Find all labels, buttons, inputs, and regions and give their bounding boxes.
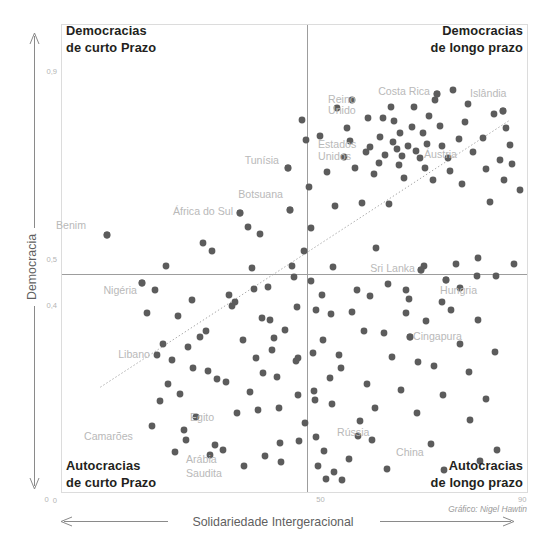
data-point (391, 118, 398, 125)
point-label: Islândia (470, 87, 507, 99)
data-point (497, 157, 504, 164)
labeled-data-point (237, 210, 244, 217)
data-point (320, 337, 327, 344)
data-point (332, 203, 339, 210)
data-point (313, 434, 320, 441)
data-point (299, 117, 306, 124)
data-point (367, 293, 374, 300)
data-point (226, 292, 233, 299)
point-label: Benim (56, 219, 86, 231)
data-point (265, 284, 272, 291)
data-point (336, 352, 343, 359)
data-point (157, 398, 164, 405)
labeled-data-point (443, 277, 450, 284)
data-point (507, 142, 514, 149)
data-point (396, 162, 403, 169)
data-point (388, 104, 395, 111)
quadrant-label-bottom-left-line1: Autocracias (66, 458, 140, 473)
data-point (503, 125, 510, 132)
x-tick-label: 50 (316, 495, 324, 504)
data-point (315, 463, 322, 470)
data-point (177, 391, 184, 398)
data-point (426, 113, 433, 120)
data-point (376, 160, 383, 167)
labeled-data-point (418, 267, 425, 274)
data-point (165, 381, 172, 388)
data-point (251, 286, 258, 293)
data-point (232, 299, 239, 306)
point-label: Saudita (186, 467, 222, 479)
data-point (381, 330, 388, 337)
point-label: Unido (328, 104, 356, 116)
data-point (296, 438, 303, 445)
quadrant-label-top-right-line1: Democracias (442, 23, 523, 38)
point-label: Hungria (440, 284, 477, 296)
data-point (483, 166, 490, 173)
data-point (390, 139, 397, 146)
data-point (276, 405, 283, 412)
data-point (483, 396, 490, 403)
data-point (417, 155, 424, 162)
data-point (352, 165, 359, 172)
point-label: Estados (318, 138, 356, 150)
labeled-data-point (139, 280, 146, 287)
data-point (394, 146, 401, 153)
data-point (459, 181, 466, 188)
data-point (330, 264, 337, 271)
data-point (380, 115, 387, 122)
data-point (327, 375, 334, 382)
data-point (220, 447, 227, 454)
data-point (308, 225, 315, 232)
data-point (509, 161, 516, 168)
data-point (205, 368, 212, 375)
data-point (149, 423, 156, 430)
data-point (364, 381, 371, 388)
data-point (403, 287, 410, 294)
quadrant-label-top-left-line2: de curto Prazo (66, 40, 156, 55)
data-point (301, 248, 308, 255)
data-point (189, 297, 196, 304)
data-point (422, 165, 429, 172)
data-point (399, 153, 406, 160)
data-point (406, 296, 413, 303)
data-point (257, 231, 264, 238)
data-point (160, 341, 167, 348)
data-point (197, 334, 204, 341)
x-tick-label: 0 (45, 495, 49, 504)
data-point (241, 463, 248, 470)
quadrant-label-top-left-line1: Democracias (66, 23, 147, 38)
data-point (440, 392, 447, 399)
data-point (282, 327, 289, 334)
data-point (339, 477, 346, 484)
quadrant-label-top-right-line2: de longo prazo (431, 40, 523, 55)
y-tick-label: 0,5 (46, 255, 57, 264)
quadrant-label-bottom-right-line1: Autocracias (449, 458, 523, 473)
data-point (175, 313, 182, 320)
data-point (209, 248, 216, 255)
data-point (313, 307, 320, 314)
data-point (384, 466, 391, 473)
data-point (344, 125, 351, 132)
data-point (152, 287, 159, 294)
data-point (377, 134, 384, 141)
data-point (492, 349, 499, 356)
point-label: Cingapura (413, 330, 462, 342)
chart-canvas: BenimNigériaÁfrica do SulTunísiaBotsuana… (0, 0, 546, 553)
data-point (223, 379, 230, 386)
data-point (467, 417, 474, 424)
data-point (354, 287, 361, 294)
quadrant-label-bottom-right-line2: de longo prazo (431, 475, 523, 490)
data-point (323, 476, 330, 483)
data-point (312, 397, 319, 404)
data-point (409, 124, 416, 131)
data-point (240, 337, 247, 344)
labeled-data-point (154, 352, 161, 359)
data-point (420, 130, 427, 137)
data-point (369, 437, 376, 444)
data-point (289, 263, 296, 270)
labeled-data-point (500, 108, 507, 115)
data-point (200, 240, 207, 247)
data-point (319, 292, 326, 299)
data-point (475, 317, 482, 324)
data-point (357, 418, 364, 425)
